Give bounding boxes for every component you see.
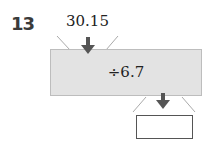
function-machine: ÷6.7: [50, 49, 202, 96]
operation-label: ÷6.7: [51, 63, 201, 81]
answer-box[interactable]: [136, 115, 193, 139]
